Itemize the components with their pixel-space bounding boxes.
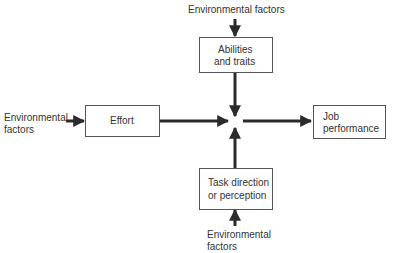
task-line1: Task direction bbox=[208, 177, 269, 189]
env-factors-top-label: Environmental factors bbox=[188, 4, 285, 16]
job-performance-box: Job performance bbox=[313, 105, 386, 139]
task-line2: or perception bbox=[208, 190, 266, 202]
env-left-line2: factors bbox=[4, 124, 68, 136]
env-bottom-line2: factors bbox=[207, 241, 271, 253]
abilities-traits-box: Abilities and traits bbox=[199, 37, 273, 73]
job-line1: Job bbox=[323, 111, 339, 123]
effort-box: Effort bbox=[85, 105, 160, 137]
task-direction-box: Task direction or perception bbox=[199, 168, 273, 210]
abilities-line2: and traits bbox=[214, 56, 255, 68]
env-factors-left-label: Environmental factors bbox=[4, 112, 68, 136]
effort-label: Effort bbox=[110, 115, 134, 127]
env-bottom-line1: Environmental bbox=[207, 229, 271, 241]
env-left-line1: Environmental bbox=[4, 112, 68, 124]
abilities-line1: Abilities bbox=[218, 44, 252, 56]
job-line2: performance bbox=[323, 123, 379, 135]
env-factors-bottom-label: Environmental factors bbox=[207, 229, 271, 253]
